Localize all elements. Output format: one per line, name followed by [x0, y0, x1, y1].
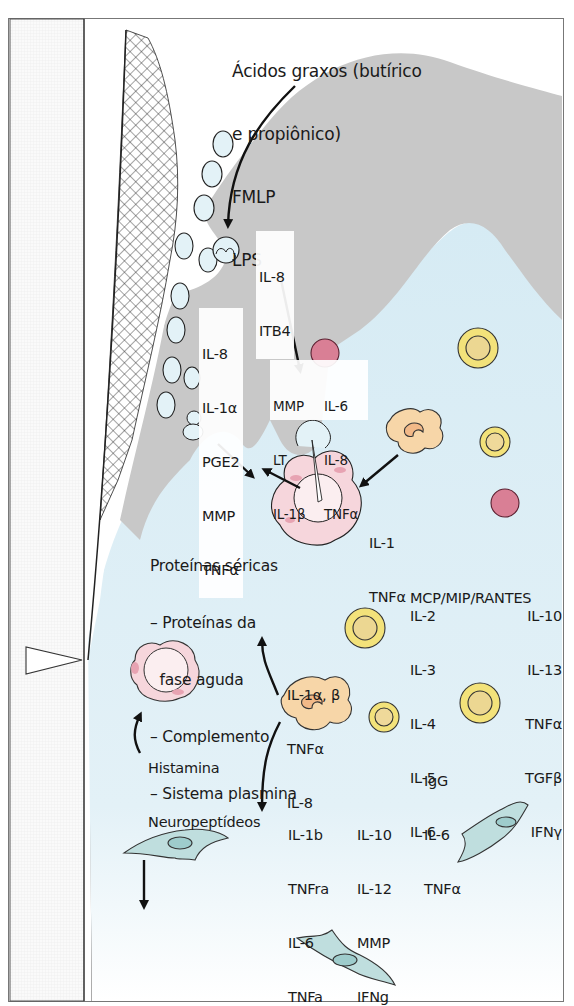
label-plasma-cell: IgG IL-6 TNFα: [424, 736, 461, 916]
label-lymphocyte-cytokines: MCP/MIP/RANTES IL-2 IL-3 IL-4 IL-5 IL-6 …: [410, 553, 562, 661]
tooth-root: [10, 19, 92, 1001]
label-macrophage-down-left: IL-1b TNFra IL-6 TNFa PGE2: [288, 790, 329, 1006]
label-macrophage-down-right: IL-10 IL-12 MMP IFNg MCP/MIP/ RANTES: [357, 790, 422, 1006]
label-il1-tnfa: IL-1 TNFα: [369, 498, 406, 624]
label-mast-cell: Histamina Neuropeptídeos: [148, 723, 260, 849]
label-pmn-products: MMP LT IL-1β IL-6 IL-8 TNFα: [270, 360, 368, 420]
label-il8-itb4: IL-8 ITB4: [256, 231, 294, 359]
